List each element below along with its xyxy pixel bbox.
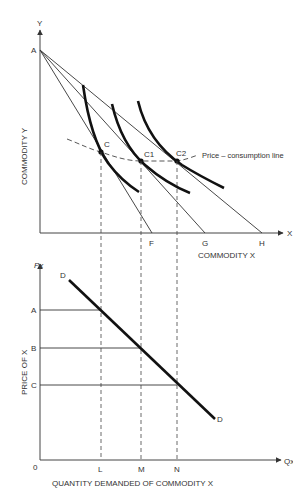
top-y-axis-title: COMMODITY Y (20, 127, 29, 185)
quantity-l-label: L (98, 465, 103, 474)
demand-label-top: D (60, 271, 66, 280)
budget-line-ah (40, 50, 262, 233)
origin-label: 0 (33, 463, 38, 472)
demand-label-bottom: D (217, 415, 223, 424)
price-level-b-label: B (31, 344, 36, 353)
indifference-curve-1 (83, 85, 139, 192)
bottom-y-axis-title: PRICE OF X (20, 349, 29, 395)
quantity-m-label: M (138, 465, 145, 474)
bottom-panel: Px Qx 0 PRICE OF X QUANTITY DEMANDED OF … (20, 261, 293, 488)
top-panel: Y X A COMMODITY Y COMMODITY X F G H Pric… (20, 19, 293, 260)
point-c-label: C (104, 140, 110, 149)
indifference-curve-3 (138, 101, 224, 188)
price-consumption-diagram: Y X A COMMODITY Y COMMODITY X F G H Pric… (0, 0, 293, 504)
intercept-h-label: H (259, 239, 265, 248)
top-y-symbol: Y (37, 19, 43, 28)
bottom-y-symbol: Px (34, 261, 44, 270)
price-level-a-label: A (31, 306, 37, 315)
price-level-c-label: C (31, 381, 37, 390)
point-c2-label: C2 (176, 149, 187, 158)
intercept-f-label: F (149, 239, 154, 248)
quantity-n-label: N (174, 465, 180, 474)
top-x-symbol: X (287, 229, 293, 238)
intercept-a-label: A (31, 46, 37, 55)
intercept-g-label: G (202, 239, 208, 248)
point-c1-label: C1 (144, 150, 155, 159)
top-x-axis-title: COMMODITY X (198, 251, 256, 260)
bottom-x-axis-title: QUANTITY DEMANDED OF COMMODITY X (52, 479, 214, 488)
budget-line-ag (40, 50, 205, 233)
demand-curve (69, 280, 215, 419)
bottom-x-symbol: Qx (284, 457, 293, 466)
price-consumption-label: Price – consumption line (202, 151, 284, 160)
